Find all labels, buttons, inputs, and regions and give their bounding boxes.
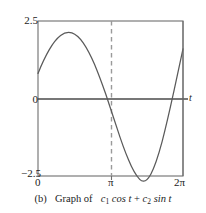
caption-c1-subscript: 1	[105, 197, 109, 206]
caption-c2-subscript: 2	[147, 197, 151, 206]
x-axis-tick-label-pi: π	[108, 177, 114, 188]
x-axis-tick-label-0: 0	[35, 177, 41, 188]
caption-text: Graph of	[55, 193, 93, 204]
figure-caption: (b) Graph of c1 cos t + c2 sin t	[0, 193, 206, 206]
caption-cos-term: cos t	[112, 193, 132, 204]
x-axis-tick-label-2pi: 2π	[174, 177, 185, 188]
x-axis-variable-label: t	[189, 93, 192, 103]
caption-plus-sign: +	[134, 193, 140, 204]
caption-sin-term: sin t	[154, 193, 172, 204]
caption-prefix: (b)	[35, 193, 47, 204]
figure-container: 2.5 0 −2.5 0 π 2π t (b) Graph of c1 cos …	[0, 0, 206, 213]
y-axis-max-label: 2.5	[24, 15, 38, 26]
y-axis-zero-label: 0	[33, 94, 39, 105]
